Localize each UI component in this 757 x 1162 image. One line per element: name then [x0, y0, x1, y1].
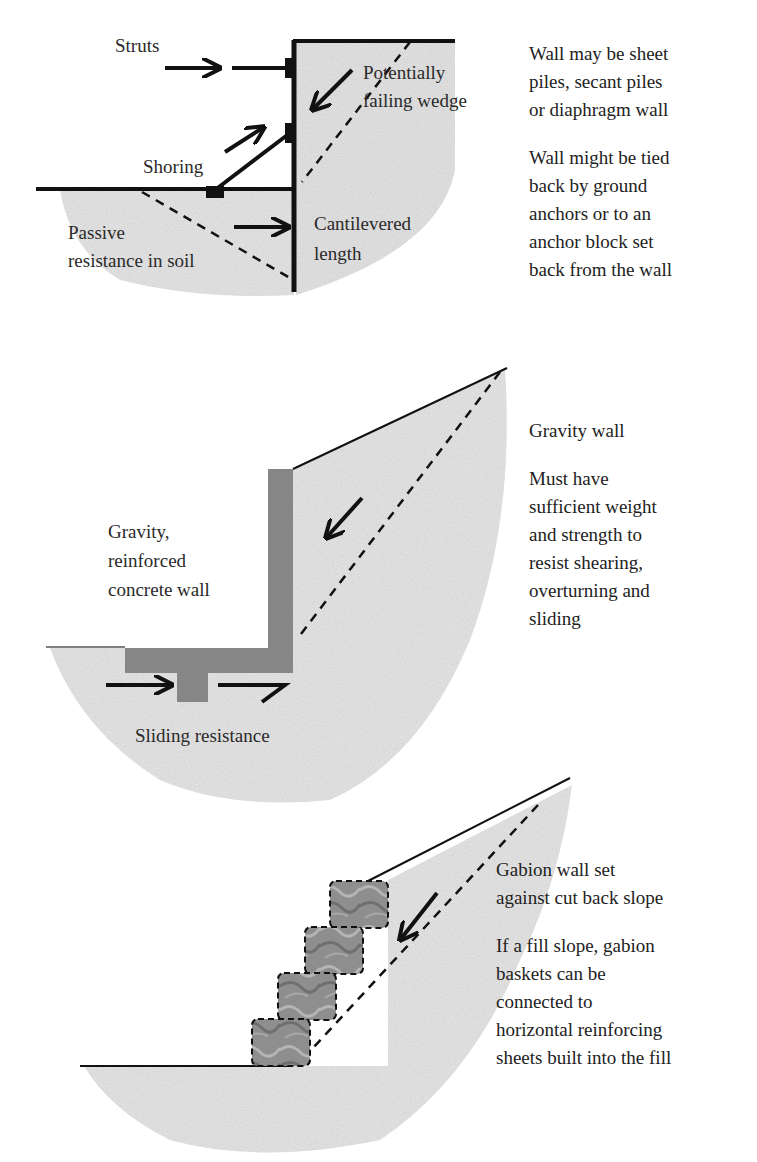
label-passive-1: Passive [68, 220, 125, 246]
label-sliding-resistance: Sliding resistance [135, 723, 270, 749]
note-gravity-requirements: Must have sufficient weight and strength… [529, 465, 657, 633]
gabion-basket [330, 881, 388, 928]
label-wall-2: reinforced [108, 548, 186, 574]
panel-2-notes: Gravity wall Must have sufficient weight… [529, 417, 657, 653]
note-gravity-wall: Gravity wall [529, 417, 657, 445]
label-wall-1: Gravity, [108, 519, 170, 545]
label-wall-3: concrete wall [108, 577, 210, 603]
label-failing-wedge-2: failing wedge [363, 88, 467, 114]
note-tie-back: Wall might be tied back by ground anchor… [529, 144, 672, 284]
label-cantilever-2: length [314, 241, 362, 267]
shoring-prop [215, 133, 290, 190]
note-wall-type: Wall may be sheet piles, secant piles or… [529, 40, 672, 124]
retaining-wall-diagram: Struts Shoring Potentially failing wedge… [0, 0, 757, 1162]
label-struts: Struts [115, 33, 159, 59]
shoring-arrow-icon [225, 127, 264, 152]
note-fill-slope: If a fill slope, gabion baskets can be c… [496, 932, 671, 1072]
gabion-basket [278, 973, 336, 1020]
gabion-basket [252, 1019, 310, 1066]
label-failing-wedge-1: Potentially [363, 60, 445, 86]
label-passive-2: resistance in soil [68, 248, 195, 274]
note-gabion-wall: Gabion wall set against cut back slope [496, 856, 671, 912]
panel-1-notes: Wall may be sheet piles, secant piles or… [529, 40, 672, 304]
gabion-basket [305, 927, 363, 974]
label-shoring: Shoring [143, 154, 203, 180]
label-cantilever-1: Cantilevered [314, 211, 411, 237]
panel-3-notes: Gabion wall set against cut back slope I… [496, 856, 671, 1092]
